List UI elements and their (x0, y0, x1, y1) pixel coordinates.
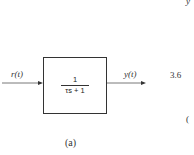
cropped-middle-fragment: 3.6 (170, 70, 181, 80)
cropped-bottom-fragment: ( (186, 114, 189, 124)
output-signal-label: y(t) (124, 69, 137, 79)
cropped-top-fragment: y (186, 0, 190, 6)
tf-numerator: 1 (73, 76, 77, 84)
output-arrow (107, 81, 146, 85)
transfer-function: 1 τs + 1 (43, 57, 107, 114)
input-signal-label: r(t) (11, 69, 23, 79)
input-arrow (2, 81, 43, 85)
figure-caption: (a) (65, 137, 76, 148)
tf-denominator: τs + 1 (65, 87, 84, 95)
